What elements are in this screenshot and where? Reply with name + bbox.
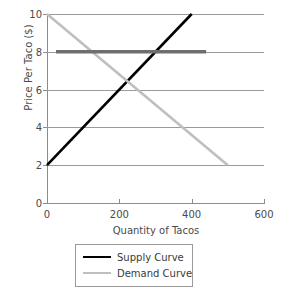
x-tick-label: 600 (254, 209, 273, 220)
y-tick-label: 6 (36, 84, 42, 95)
supply-demand-chart: Price Per Taco ($) 0246810 0200400600 Qu… (0, 0, 288, 298)
x-axis-title: Quantity of Tacos (47, 225, 265, 236)
x-tick-label: 400 (182, 209, 201, 220)
x-axis-line (47, 203, 265, 204)
x-tick-mark (264, 199, 265, 203)
legend-swatch (83, 272, 111, 274)
chart-legend: Supply CurveDemand Curve (75, 244, 193, 287)
y-tick-label: 4 (36, 122, 42, 133)
series-layer (47, 14, 264, 203)
plot-area: 0246810 0200400600 (47, 14, 264, 203)
x-tick-label: 0 (44, 209, 50, 220)
legend-item: Supply Curve (76, 249, 192, 265)
y-tick-label: 8 (36, 46, 42, 57)
y-axis-title: Price Per Taco ($) (23, 0, 34, 148)
legend-label: Supply Curve (117, 252, 184, 263)
y-tick-label: 10 (29, 9, 42, 20)
legend-swatch (83, 256, 111, 258)
legend-item: Demand Curve (76, 265, 192, 281)
series-line (47, 14, 192, 165)
y-tick-mark (43, 203, 47, 204)
series-line (47, 14, 228, 165)
legend-label: Demand Curve (117, 268, 192, 279)
x-tick-label: 200 (110, 209, 129, 220)
y-tick-label: 2 (36, 160, 42, 171)
y-tick-label: 0 (36, 198, 42, 209)
